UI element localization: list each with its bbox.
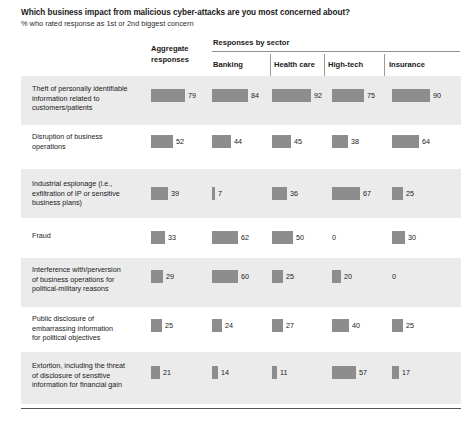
row-label-line: of business operations for [32, 275, 152, 285]
row-label-line: exfiltration of IP or sensitive [32, 189, 152, 199]
bar [392, 89, 430, 102]
row-label-line: business plans) [32, 198, 152, 208]
bar [272, 270, 283, 283]
bar [332, 135, 348, 148]
bar-value-label: 62 [241, 231, 249, 244]
column-header-aggregate: Aggregate responses [151, 44, 207, 65]
table-row: Disruption of businessoperations52444538… [21, 126, 461, 168]
bar-value-label: 33 [168, 231, 176, 244]
column-header-aggregate-line1: Aggregate [151, 44, 207, 55]
bar [272, 89, 311, 102]
bar [212, 89, 248, 102]
chart-container: Which business impact from malicious cyb… [0, 0, 472, 424]
bar-value-label: 39 [171, 187, 179, 200]
bar-value-label: 17 [402, 366, 410, 379]
row-label-line: for political objectives [32, 333, 152, 343]
bar-value-label: 60 [241, 270, 249, 283]
sector-group-rule [212, 51, 460, 52]
bar-value-label: 84 [251, 89, 259, 102]
bar [272, 319, 283, 332]
bar [212, 366, 218, 379]
bar [392, 319, 403, 332]
bar [212, 187, 215, 200]
row-label-line: information for financial gain [32, 380, 152, 390]
bar [332, 270, 341, 283]
bar [272, 231, 293, 244]
bar [272, 366, 277, 379]
row-label-line: Fraud [32, 231, 152, 241]
bar-value-label: 25 [286, 270, 294, 283]
row-label-line: Theft of personally identifiable [32, 84, 152, 94]
row-label: Theft of personally identifiableinformat… [32, 84, 152, 113]
bar-value-label: 92 [314, 89, 322, 102]
bar [151, 319, 162, 332]
bar [151, 366, 160, 379]
row-label: Industrial espionage (i.e.,exfiltration … [32, 179, 152, 208]
bar-value-label: 64 [422, 135, 430, 148]
bar-value-label: 7 [218, 187, 222, 200]
bar [272, 187, 287, 200]
column-group-header-sector: Responses by sector [213, 38, 463, 48]
chart-subtitle: % who rated response as 1st or 2nd bigge… [21, 19, 461, 29]
column-divider-2 [324, 54, 325, 76]
bar [212, 231, 238, 244]
bar-value-label: 57 [359, 366, 367, 379]
bar-value-label: 50 [296, 231, 304, 244]
bar [392, 135, 419, 148]
row-label-line: information related to [32, 94, 152, 104]
bar [332, 89, 364, 102]
row-label-line: Extortion, including the threat [32, 361, 152, 371]
bar-value-label: 0 [332, 231, 336, 244]
row-label: Public disclosure ofembarrassing informa… [32, 314, 152, 343]
table-row: Fraud336250030 [21, 219, 461, 257]
bar-value-label: 20 [344, 270, 352, 283]
column-header-health-care: Health care [274, 60, 315, 70]
table-row: Industrial espionage (i.e.,exfiltration … [21, 169, 461, 218]
bar-value-label: 52 [176, 135, 184, 148]
bar-value-label: 30 [408, 231, 416, 244]
column-header-banking: Banking [213, 60, 243, 70]
footer-rule [21, 408, 461, 409]
bar-value-label: 25 [406, 319, 414, 332]
bar-value-label: 44 [234, 135, 242, 148]
column-header-insurance: Insurance [389, 60, 425, 70]
bar [151, 270, 163, 283]
row-label: Disruption of businessoperations [32, 132, 152, 151]
bar [332, 187, 360, 200]
bar-value-label: 25 [406, 187, 414, 200]
bar-value-label: 11 [280, 366, 287, 379]
bar-value-label: 14 [221, 366, 229, 379]
bar-value-label: 40 [352, 319, 360, 332]
bar [151, 187, 168, 200]
row-label: Interference with/perversionof business … [32, 265, 152, 294]
bar-value-label: 79 [188, 89, 196, 102]
bar-value-label: 0 [392, 270, 396, 283]
table-row: Theft of personally identifiableinformat… [21, 76, 461, 125]
bar [272, 135, 291, 148]
bar-value-label: 38 [351, 135, 359, 148]
bar [212, 319, 222, 332]
bar-value-label: 27 [286, 319, 294, 332]
row-label-line: customers/patients [32, 103, 152, 113]
row-label-line: Industrial espionage (i.e., [32, 179, 152, 189]
bar [332, 319, 349, 332]
page-title: Which business impact from malicious cyb… [21, 7, 461, 18]
bar [392, 231, 405, 244]
bar-value-label: 67 [363, 187, 371, 200]
bar-value-label: 21 [163, 366, 171, 379]
row-label: Fraud [32, 231, 152, 241]
row-label-line: Interference with/perversion [32, 265, 152, 275]
column-header-aggregate-line2: responses [151, 55, 207, 66]
column-divider-3 [384, 54, 385, 76]
bar [392, 366, 399, 379]
bar-value-label: 75 [367, 89, 375, 102]
row-label: Extortion, including the threatof disclo… [32, 361, 152, 390]
column-divider-1 [270, 54, 271, 76]
bar-value-label: 36 [290, 187, 298, 200]
bar [151, 135, 173, 148]
row-label-line: Disruption of business [32, 132, 152, 142]
row-label-line: political-military reasons [32, 284, 152, 294]
table-row: Public disclosure ofembarrassing informa… [21, 308, 461, 351]
bar [212, 135, 231, 148]
bar-value-label: 29 [166, 270, 174, 283]
